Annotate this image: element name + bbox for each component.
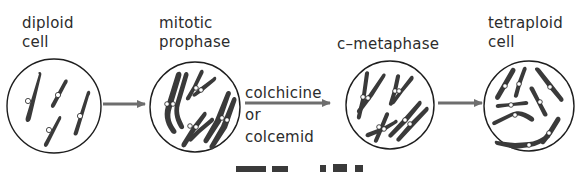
c-metaphase-cell bbox=[346, 61, 434, 149]
cropped-caption-fragment bbox=[236, 164, 363, 172]
prophase-cell bbox=[150, 62, 240, 152]
diploid-cell bbox=[7, 59, 101, 153]
centromere-icon bbox=[25, 98, 30, 103]
tetraploid-cell bbox=[484, 61, 574, 151]
diagram-canvas bbox=[0, 0, 586, 172]
